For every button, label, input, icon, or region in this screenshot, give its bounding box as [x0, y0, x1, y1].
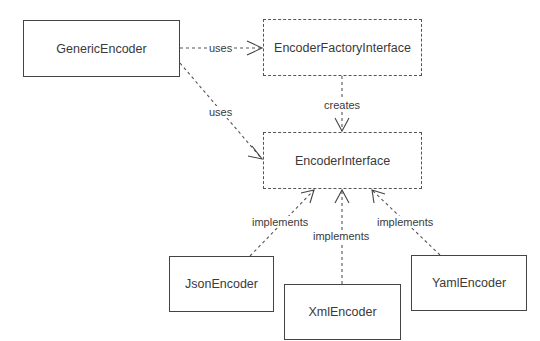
node-label: GenericEncoder	[56, 42, 146, 56]
edge-label-implements-json: implements	[251, 216, 309, 228]
edge-label-implements-yaml: implements	[376, 216, 434, 228]
edge-label-creates: creates	[323, 99, 361, 111]
edge-label-uses-factory: uses	[208, 42, 233, 54]
encoder-interface-node: EncoderInterface	[263, 132, 422, 189]
node-label: XmlEncoder	[308, 305, 376, 319]
edge-label-implements-xml: implements	[312, 230, 370, 242]
arrowhead-icon	[301, 190, 314, 203]
json-encoder-node: JsonEncoder	[169, 256, 274, 312]
node-label: JsonEncoder	[185, 277, 258, 291]
yaml-encoder-node: YamlEncoder	[411, 255, 527, 311]
xml-encoder-node: XmlEncoder	[284, 284, 401, 340]
encoder-factory-interface-node: EncoderFactoryInterface	[263, 19, 422, 76]
node-label: EncoderInterface	[295, 154, 390, 168]
edge-label-uses-interface: uses	[208, 106, 233, 118]
generic-encoder-node: GenericEncoder	[23, 20, 180, 77]
node-label: YamlEncoder	[432, 276, 506, 290]
node-label: EncoderFactoryInterface	[274, 41, 411, 55]
arrowhead-icon	[248, 146, 262, 159]
